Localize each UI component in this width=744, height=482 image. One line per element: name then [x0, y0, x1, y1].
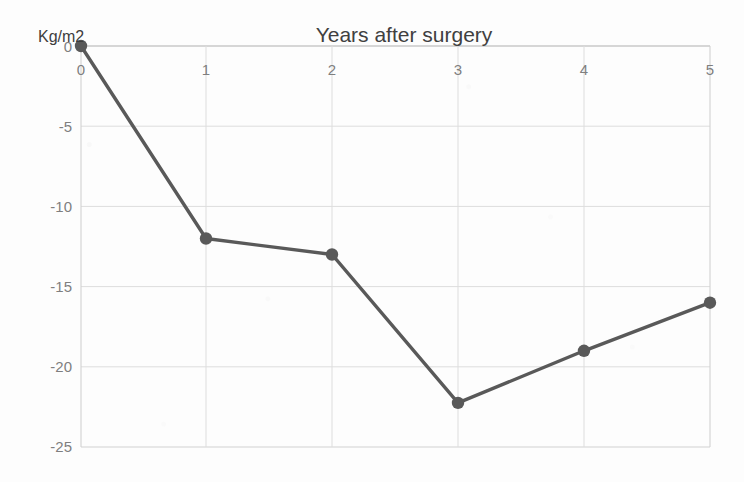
data-point-year-4: [578, 345, 590, 357]
y-tick-label-0: 0: [64, 38, 72, 55]
chart-page: Years after surgery Kg/m2 0 -5 -10 -15 -…: [0, 0, 744, 482]
data-point-year-2: [326, 248, 338, 260]
y-tick-label--20: -20: [50, 358, 72, 375]
x-tick-label-5: 5: [706, 61, 714, 78]
data-point-year-3: [452, 397, 464, 409]
line-chart: Years after surgery Kg/m2 0 -5 -10 -15 -…: [0, 0, 744, 482]
y-tick-label--15: -15: [50, 278, 72, 295]
y-axis-tick-labels: 0 -5 -10 -15 -20 -25: [50, 38, 72, 455]
data-markers: [75, 40, 716, 409]
x-axis-tick-labels: 0 1 2 3 4 5: [77, 61, 714, 78]
x-tick-label-0: 0: [77, 61, 85, 78]
gridlines: [81, 46, 710, 447]
data-point-year-1: [200, 232, 212, 244]
chart-title: Years after surgery: [316, 23, 493, 46]
y-tick-label--10: -10: [50, 198, 72, 215]
data-line-series-1: [81, 46, 710, 403]
x-tick-label-3: 3: [454, 61, 462, 78]
x-tick-label-1: 1: [202, 61, 210, 78]
y-tick-label--25: -25: [50, 438, 72, 455]
y-axis-unit-label: Kg/m2: [38, 28, 84, 45]
y-tick-label--5: -5: [59, 118, 72, 135]
x-tick-label-4: 4: [580, 61, 588, 78]
data-point-year-5: [704, 297, 716, 309]
x-tick-label-2: 2: [328, 61, 336, 78]
